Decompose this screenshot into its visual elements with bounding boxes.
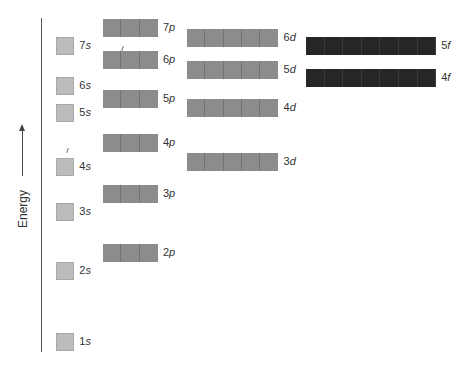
orbital-box [205, 153, 223, 171]
orbital-4s [56, 158, 74, 176]
orbital-box [205, 61, 223, 79]
orbital-5f [306, 37, 436, 55]
orbital-box [56, 203, 74, 221]
orbital-box [103, 19, 121, 37]
orbital-6s [56, 77, 74, 95]
orbital-label-4p: 4p [163, 136, 175, 148]
orbital-box [140, 134, 158, 152]
orbital-5s [56, 104, 74, 122]
orbital-box [242, 153, 260, 171]
orbital-box [121, 244, 139, 262]
orbital-label-6s: 6s [79, 79, 91, 91]
orbital-label-7s: 7s [79, 39, 91, 51]
orbital-5d [187, 61, 278, 79]
orbital-box [224, 29, 242, 47]
orbital-label-1s: 1s [79, 335, 91, 347]
orbital-box [224, 153, 242, 171]
orbital-box [140, 51, 158, 69]
orbital-2p [103, 244, 158, 262]
orbital-box [121, 90, 139, 108]
orbital-box [140, 244, 158, 262]
orbital-box [121, 185, 139, 203]
orbital-label-4d: 4d [284, 101, 296, 113]
orbital-label-3s: 3s [79, 205, 91, 217]
orbital-box [103, 134, 121, 152]
orbital-label-3d: 3d [284, 155, 296, 167]
orbital-label-4s: 4s [79, 160, 91, 172]
orbital-box [260, 99, 278, 117]
orbital-box [103, 90, 121, 108]
orbital-label-5s: 5s [79, 106, 91, 118]
energy-label: Energy [16, 190, 30, 228]
orbital-box [140, 19, 158, 37]
orbital-box [399, 69, 418, 87]
orbital-box [418, 37, 437, 55]
orbital-box [103, 244, 121, 262]
orbital-4f [306, 69, 436, 87]
orbital-box [140, 90, 158, 108]
orbital-box [56, 158, 74, 176]
orbital-box [224, 61, 242, 79]
orbital-4d [187, 99, 278, 117]
orbital-3d [187, 153, 278, 171]
orbital-box [306, 69, 325, 87]
orbital-box [325, 37, 344, 55]
orbital-box [187, 29, 205, 47]
orbital-box [399, 37, 418, 55]
orbital-box [56, 104, 74, 122]
orbital-box [380, 37, 399, 55]
orbital-box [343, 37, 362, 55]
orbital-label-5p: 5p [163, 92, 175, 104]
orbital-box [260, 61, 278, 79]
orbital-label-2s: 2s [79, 264, 91, 276]
orbital-box [242, 29, 260, 47]
orbital-box [362, 69, 381, 87]
orbital-box [343, 69, 362, 87]
orbital-7p [103, 19, 158, 37]
orbital-box [121, 134, 139, 152]
orbital-box [187, 61, 205, 79]
orbital-label-5f: 5f [441, 39, 450, 51]
orbital-label-6p: 6p [163, 53, 175, 65]
orbital-box [121, 19, 139, 37]
orbital-box [306, 37, 325, 55]
orbital-7s [56, 37, 74, 55]
arrow-up-icon [19, 124, 25, 131]
orbital-box [205, 29, 223, 47]
orbital-box [380, 69, 399, 87]
orbital-box [103, 51, 121, 69]
orbital-box [187, 153, 205, 171]
orbital-box [418, 69, 437, 87]
orbital-box [260, 29, 278, 47]
orbital-box [56, 37, 74, 55]
orbital-2s [56, 262, 74, 280]
tick-mark [66, 148, 69, 153]
orbital-box [224, 99, 242, 117]
orbital-1s [56, 333, 74, 351]
orbital-box [260, 153, 278, 171]
orbital-box [121, 51, 139, 69]
orbital-label-2p: 2p [163, 246, 175, 258]
orbital-box [325, 69, 344, 87]
orbital-6p [103, 51, 158, 69]
orbital-box [242, 61, 260, 79]
orbital-box [103, 185, 121, 203]
orbital-box [140, 185, 158, 203]
orbital-box [187, 99, 205, 117]
orbital-label-7p: 7p [163, 21, 175, 33]
orbital-label-3p: 3p [163, 187, 175, 199]
energy-arrow-line [22, 130, 23, 176]
orbital-5p [103, 90, 158, 108]
energy-axis-line [41, 18, 42, 352]
orbital-box [362, 37, 381, 55]
orbital-box [242, 99, 260, 117]
orbital-6d [187, 29, 278, 47]
orbital-3p [103, 185, 158, 203]
orbital-box [56, 77, 74, 95]
orbital-label-5d: 5d [284, 63, 296, 75]
orbital-box [56, 262, 74, 280]
orbital-box [56, 333, 74, 351]
orbital-4p [103, 134, 158, 152]
orbital-label-4f: 4f [441, 71, 450, 83]
orbital-label-6d: 6d [284, 31, 296, 43]
